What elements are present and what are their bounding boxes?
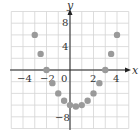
- data-point: [32, 32, 38, 38]
- data-point: [84, 98, 90, 104]
- data-point: [79, 102, 85, 108]
- scatter-chart: x y −4 −2 0 2 4 8 4 −8: [0, 0, 139, 138]
- axes: [10, 9, 131, 130]
- x-tick-neg4: −4: [17, 73, 32, 84]
- data-point: [61, 98, 67, 104]
- data-point: [102, 67, 108, 73]
- data-point: [90, 90, 96, 96]
- data-point: [114, 32, 120, 38]
- data-point: [37, 51, 43, 57]
- data-point: [108, 51, 114, 57]
- x-tick-4: 4: [113, 73, 119, 84]
- data-point: [55, 90, 61, 96]
- data-point: [73, 103, 79, 109]
- data-point: [49, 80, 55, 86]
- data-points: [32, 32, 121, 110]
- x-axis-label: x: [132, 64, 139, 77]
- x-axis-arrow-icon: [125, 68, 131, 73]
- y-axis-label: y: [66, 0, 74, 12]
- y-tick-8: 8: [62, 17, 68, 28]
- y-tick-4: 4: [62, 41, 68, 52]
- x-tick-0: 0: [61, 73, 67, 84]
- data-point: [96, 80, 102, 86]
- y-tick-neg8: −8: [55, 112, 70, 123]
- data-point: [43, 67, 49, 73]
- x-tick-2: 2: [90, 73, 96, 84]
- data-point: [67, 102, 73, 108]
